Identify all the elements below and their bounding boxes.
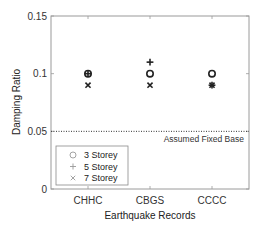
legend-label: 3 Storey (84, 150, 118, 160)
legend-label: 5 Storey (84, 162, 118, 172)
legend: 3 Storey5 Storey7 Storey (56, 146, 128, 185)
x-tick-label: CCCC (198, 195, 227, 206)
x-axis-label: Earthquake Records (104, 210, 195, 221)
y-axis-label: Damping Ratio (11, 68, 22, 135)
reference-line-label: Assumed Fixed Base (164, 134, 245, 144)
y-tick-label: 0 (41, 184, 47, 195)
x-tick-label: CHHC (74, 195, 103, 206)
damping-ratio-chart: 00.050.10.15 CHHCCBGSCCCC Assumed Fixed … (0, 0, 261, 227)
y-tick-label: 0.05 (28, 126, 48, 137)
y-tick-label: 0.1 (33, 68, 47, 79)
legend-label: 7 Storey (84, 173, 118, 183)
x-tick-label: CBGS (136, 195, 165, 206)
y-tick-label: 0.15 (28, 11, 48, 22)
